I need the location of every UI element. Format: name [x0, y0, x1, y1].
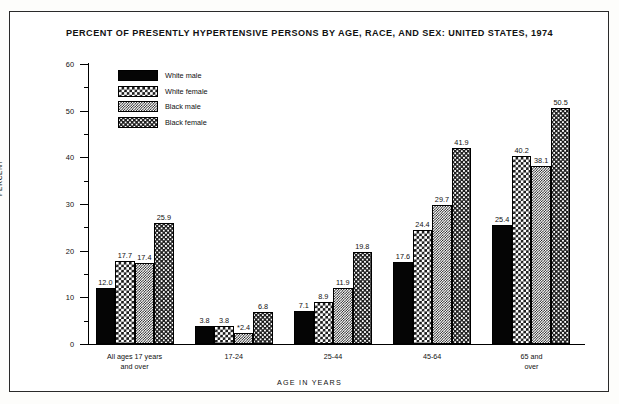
- y-tick-major: [80, 344, 89, 345]
- legend-item[interactable]: White male: [118, 68, 248, 84]
- bar[interactable]: 17.7: [115, 261, 135, 344]
- bar-group: 25.440.238.150.5: [492, 64, 570, 344]
- x-category-label-line: 65 and: [476, 352, 586, 362]
- bar-value-label: *2.4: [237, 323, 250, 332]
- legend-swatch: [118, 70, 158, 81]
- y-tick-label: 10: [46, 293, 74, 302]
- bar[interactable]: 7.1: [294, 311, 314, 344]
- bar[interactable]: 40.2: [512, 156, 532, 344]
- bar[interactable]: 41.9: [452, 148, 472, 344]
- bar-value-label: 11.9: [336, 278, 350, 287]
- legend-swatch: [118, 86, 158, 97]
- bar[interactable]: 17.6: [393, 262, 413, 344]
- bar-value-label: 3.8: [199, 316, 209, 325]
- bar-value-label: 41.9: [454, 138, 468, 147]
- legend-item[interactable]: Black male: [118, 99, 248, 115]
- y-tick-label: 30: [46, 200, 74, 209]
- x-category-label-line: 17-24: [179, 352, 289, 362]
- chart-title: PERCENT OF PRESENTLY HYPERTENSIVE PERSON…: [0, 28, 619, 38]
- y-axis-title: PERCENT: [0, 160, 3, 196]
- bar-value-label: 40.2: [515, 146, 529, 155]
- bar-value-label: 7.1: [299, 301, 309, 310]
- x-category-label-line: over: [476, 362, 586, 372]
- bar-value-label: 12.0: [98, 278, 112, 287]
- bar-value-label: 38.1: [534, 156, 548, 165]
- y-tick-label: 20: [46, 247, 74, 256]
- x-category-label-line: 45-64: [377, 352, 487, 362]
- y-tick-label: 50: [46, 107, 74, 116]
- bar-value-label: 17.7: [118, 251, 132, 260]
- bar[interactable]: 29.7: [432, 205, 452, 344]
- bar-value-label: 17.4: [137, 253, 151, 262]
- bar[interactable]: 11.9: [333, 288, 353, 344]
- chart-legend: White maleWhite femaleBlack maleBlack fe…: [118, 68, 248, 130]
- bar[interactable]: 6.8: [253, 312, 273, 344]
- bar[interactable]: 8.9: [314, 302, 334, 344]
- bar[interactable]: 3.8: [195, 326, 215, 344]
- chart-figure: PERCENT OF PRESENTLY HYPERTENSIVE PERSON…: [0, 0, 619, 404]
- x-category-label-line: and over: [80, 362, 190, 372]
- bar[interactable]: 50.5: [551, 108, 571, 344]
- bar-value-label: 17.6: [396, 252, 410, 261]
- x-category-label: All ages 17 yearsand over: [80, 352, 190, 371]
- legend-label: White male: [165, 71, 202, 80]
- bar-group: 7.18.911.919.8: [294, 64, 372, 344]
- x-category-label: 65 andover: [476, 352, 586, 371]
- y-tick-label: 0: [46, 340, 74, 349]
- bar[interactable]: 12.0: [96, 288, 116, 344]
- legend-label: Black male: [165, 102, 201, 111]
- bar[interactable]: 24.4: [413, 230, 433, 344]
- bar[interactable]: 17.4: [135, 263, 155, 344]
- x-category-label: 17-24: [179, 352, 289, 362]
- bar[interactable]: 19.8: [353, 252, 373, 344]
- y-tick-label: 60: [46, 60, 74, 69]
- legend-label: White female: [165, 87, 208, 96]
- bar-value-label: 24.4: [415, 220, 429, 229]
- legend-item[interactable]: Black female: [118, 115, 248, 131]
- bar[interactable]: 25.9: [154, 223, 174, 344]
- bar[interactable]: 38.1: [531, 166, 551, 344]
- legend-item[interactable]: White female: [118, 84, 248, 100]
- bar[interactable]: *2.4: [234, 333, 254, 344]
- x-category-label-line: All ages 17 years: [80, 352, 190, 362]
- x-category-label: 25-44: [278, 352, 388, 362]
- legend-swatch: [118, 117, 158, 128]
- x-axis-title: AGE IN YEARS: [0, 378, 619, 387]
- bar[interactable]: 3.8: [214, 326, 234, 344]
- bar-value-label: 19.8: [355, 242, 369, 251]
- bar-value-label: 25.9: [157, 213, 171, 222]
- bar-value-label: 25.4: [495, 215, 509, 224]
- bar-value-label: 50.5: [554, 98, 568, 107]
- bar-group: 17.624.429.741.9: [393, 64, 471, 344]
- x-category-label: 45-64: [377, 352, 487, 362]
- x-axis-line: [88, 344, 585, 345]
- legend-swatch: [118, 101, 158, 112]
- bar-value-label: 3.8: [219, 316, 229, 325]
- x-category-label-line: 25-44: [278, 352, 388, 362]
- legend-label: Black female: [165, 118, 207, 127]
- y-tick-label: 40: [46, 153, 74, 162]
- bar[interactable]: 25.4: [492, 225, 512, 344]
- bar-value-label: 29.7: [435, 195, 449, 204]
- bar-value-label: 6.8: [258, 302, 268, 311]
- bar-value-label: 8.9: [318, 292, 328, 301]
